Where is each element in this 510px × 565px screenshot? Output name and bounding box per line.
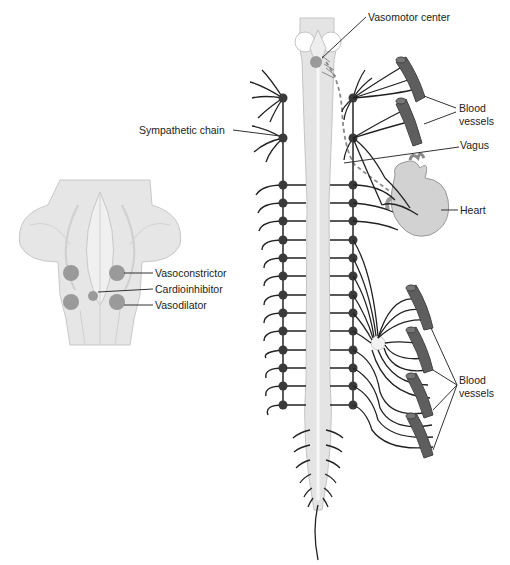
brainstem-inset: Vasoconstrictor Cardioinhibitor Vasodila… [19, 180, 227, 345]
vasomotor-center-nucleus [310, 56, 322, 68]
collateral-ganglion [371, 336, 385, 350]
heart [353, 154, 449, 236]
autonomic-diagram: Vasoconstrictor Cardioinhibitor Vasodila… [0, 0, 510, 565]
label-vasodilator: Vasodilator [155, 299, 207, 311]
vasoconstrictor-nucleus-right [109, 265, 125, 281]
label-heart: Heart [460, 204, 486, 216]
vasoconstrictor-nucleus-left [63, 265, 79, 281]
vasodilator-nucleus-right [109, 294, 125, 310]
cardioinhibitor-nucleus [88, 291, 98, 301]
vasodilator-nucleus-left [63, 294, 79, 310]
label-blood-vessels-lower-line1: Blood [459, 374, 486, 386]
label-vasoconstrictor: Vasoconstrictor [155, 267, 227, 279]
label-blood-vessels-upper-line2: vessels [459, 115, 494, 127]
label-vasomotor-center: Vasomotor center [368, 11, 451, 23]
brainstem-and-spinal-cord [293, 18, 343, 560]
label-sympathetic-chain: Sympathetic chain [139, 124, 225, 136]
label-blood-vessels-lower-line2: vessels [459, 387, 494, 399]
diagram-canvas: Vasoconstrictor Cardioinhibitor Vasodila… [0, 0, 510, 565]
filum-terminale [315, 505, 318, 560]
label-blood-vessels-upper-line1: Blood [459, 102, 486, 114]
blood-vessels-lower [353, 240, 433, 458]
label-cardioinhibitor: Cardioinhibitor [155, 283, 223, 295]
label-vagus: Vagus [460, 139, 489, 151]
